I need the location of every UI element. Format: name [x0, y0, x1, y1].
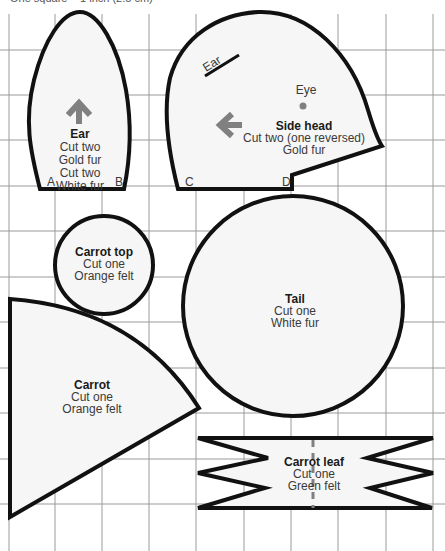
- carrot-top-line-2: Orange felt: [74, 269, 134, 283]
- point-a-label: A: [47, 175, 55, 189]
- ear-line-4: White fur: [56, 179, 104, 193]
- eye-marker-icon: [300, 103, 307, 110]
- eye-label: Eye: [296, 83, 317, 97]
- ear-line-1: Cut two: [60, 140, 101, 154]
- side-head-line-2: Gold fur: [283, 143, 326, 157]
- point-c-label: C: [185, 175, 194, 189]
- point-d-label: D: [282, 175, 291, 189]
- tail-line-2: White fur: [271, 316, 319, 330]
- point-b-label: B: [115, 175, 123, 189]
- side-head-piece: [167, 12, 382, 189]
- pattern-diagram: Ear Cut two Gold fur Cut two White fur A…: [0, 0, 445, 551]
- ear-line-2: Gold fur: [59, 153, 102, 167]
- carrot-leaf-line-2: Green felt: [288, 479, 341, 493]
- ear-title: Ear: [70, 127, 90, 141]
- carrot-line-2: Orange felt: [62, 402, 122, 416]
- ear-line-3: Cut two: [60, 166, 101, 180]
